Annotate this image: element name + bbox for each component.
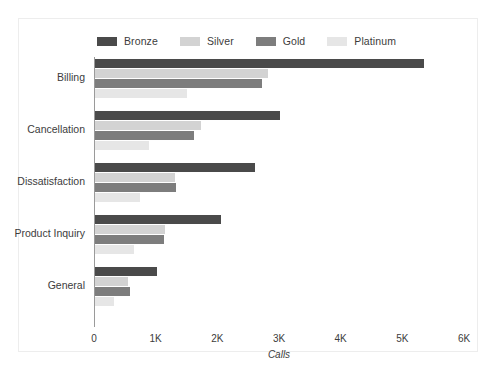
bar-gold[interactable]	[95, 235, 164, 244]
legend-item-gold[interactable]: Gold	[256, 35, 306, 47]
legend-swatch-icon	[180, 37, 200, 46]
y-axis-tick-label: Cancellation	[27, 123, 85, 135]
legend-label: Platinum	[354, 35, 396, 47]
bar-bronze[interactable]	[95, 163, 255, 172]
legend-label: Silver	[207, 35, 234, 47]
x-axis-tick-label: 1K	[150, 333, 162, 344]
x-axis-tick-label: 3K	[273, 333, 285, 344]
legend-item-platinum[interactable]: Platinum	[327, 35, 396, 47]
plot-area: BillingCancellationDissatisfactionProduc…	[94, 57, 464, 327]
bar-gold[interactable]	[95, 79, 262, 88]
y-axis-tick-label: Billing	[57, 71, 85, 83]
bar-silver[interactable]	[95, 69, 268, 78]
y-axis-tick-label: Dissatisfaction	[17, 175, 85, 187]
x-axis-tick-label: 6K	[458, 333, 470, 344]
x-axis-tick-label: 0	[91, 333, 97, 344]
bar-silver[interactable]	[95, 173, 175, 182]
bar-platinum[interactable]	[95, 193, 140, 202]
y-axis-tick-label: Product Inquiry	[14, 227, 85, 239]
y-axis-tick-label: General	[48, 279, 85, 291]
bar-platinum[interactable]	[95, 89, 187, 98]
legend-label: Bronze	[124, 35, 158, 47]
bar-gold[interactable]	[95, 287, 130, 296]
legend-swatch-icon	[97, 37, 117, 46]
chart-frame: BronzeSilverGoldPlatinum BillingCancella…	[18, 18, 478, 352]
bar-group: Product Inquiry	[94, 215, 464, 256]
bar-silver[interactable]	[95, 277, 128, 286]
legend-label: Gold	[283, 35, 306, 47]
bar-bronze[interactable]	[95, 59, 424, 68]
bar-group: Cancellation	[94, 111, 464, 152]
x-axis-tick-label: 5K	[396, 333, 408, 344]
x-axis: Calls 01K2K3K4K5K6K	[94, 327, 464, 367]
legend-item-silver[interactable]: Silver	[180, 35, 234, 47]
bar-group: Billing	[94, 59, 464, 100]
bar-group: Dissatisfaction	[94, 163, 464, 204]
legend-swatch-icon	[327, 37, 347, 46]
bar-platinum[interactable]	[95, 245, 134, 254]
legend-swatch-icon	[256, 37, 276, 46]
bar-bronze[interactable]	[95, 267, 157, 276]
x-axis-title: Calls	[94, 349, 464, 360]
bar-bronze[interactable]	[95, 111, 280, 120]
x-axis-title-text: Calls	[268, 349, 290, 360]
bar-platinum[interactable]	[95, 141, 149, 150]
bar-platinum[interactable]	[95, 297, 114, 306]
bar-silver[interactable]	[95, 225, 165, 234]
x-axis-tick-label: 2K	[211, 333, 223, 344]
bar-group: General	[94, 267, 464, 308]
bar-gold[interactable]	[95, 183, 176, 192]
bar-bronze[interactable]	[95, 215, 221, 224]
chart-legend: BronzeSilverGoldPlatinum	[97, 33, 418, 49]
bar-silver[interactable]	[95, 121, 201, 130]
bar-gold[interactable]	[95, 131, 194, 140]
legend-item-bronze[interactable]: Bronze	[97, 35, 158, 47]
x-axis-tick-label: 4K	[335, 333, 347, 344]
